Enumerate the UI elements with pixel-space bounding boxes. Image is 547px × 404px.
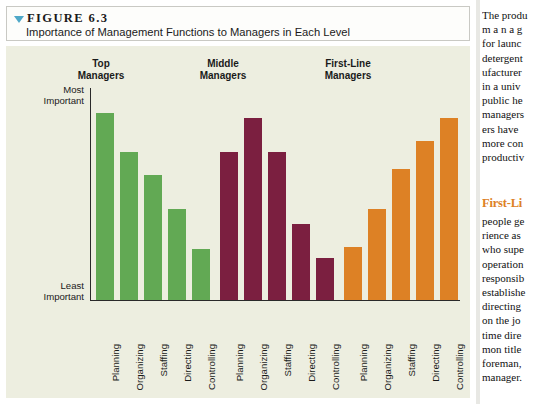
group-heading-middle-line1: Middle xyxy=(168,58,278,70)
bar-first-line-managers-staffing xyxy=(392,169,410,300)
bar-top-managers-directing xyxy=(168,209,186,300)
text-line: who supe xyxy=(482,242,547,256)
figure-number: FIGURE 6.3 xyxy=(27,11,108,26)
bar-first-line-managers-directing xyxy=(416,141,434,300)
body-paragraph-2: people gerience aswho supeoperationrespo… xyxy=(482,214,547,384)
x-tick-label: Controlling xyxy=(206,344,217,390)
bar-first-line-managers-organizing xyxy=(368,209,386,300)
text-line: managers xyxy=(482,107,547,121)
text-line: rience as xyxy=(482,228,547,242)
page-gutter xyxy=(476,0,480,404)
text-line: responsib xyxy=(482,271,547,285)
bar-first-line-managers-controlling xyxy=(440,118,458,300)
x-tick-label: Staffing xyxy=(282,344,293,376)
x-tick-label: Directing xyxy=(182,344,193,382)
bar-middle-managers-organizing xyxy=(244,118,262,300)
x-tick-label: Planning xyxy=(358,344,369,381)
x-tick-label: Staffing xyxy=(406,344,417,376)
y-axis-label-least: Least Important xyxy=(18,280,84,302)
text-line: people ge xyxy=(482,214,547,228)
group-heading-middle-line2: Managers xyxy=(168,70,278,82)
bar-top-managers-staffing xyxy=(144,175,162,300)
group-heading-firstline: First-Line Managers xyxy=(293,58,403,82)
text-line: The produ xyxy=(482,8,547,22)
text-line: establishe xyxy=(482,285,547,299)
figure-label-row: FIGURE 6.3 xyxy=(14,11,108,26)
text-line: ers have xyxy=(482,122,547,136)
text-line: operation xyxy=(482,257,547,271)
text-line: detergent xyxy=(482,51,547,65)
bar-middle-managers-staffing xyxy=(268,152,286,300)
x-tick-label: Organizing xyxy=(382,344,393,390)
bar-top-managers-organizing xyxy=(120,152,138,300)
bar-middle-managers-planning xyxy=(220,152,238,300)
text-line: more con xyxy=(482,136,547,150)
group-heading-top-line2: Managers xyxy=(46,70,156,82)
x-tick-label: Organizing xyxy=(258,344,269,390)
group-heading-top-line1: Top xyxy=(46,58,156,70)
triangle-down-icon xyxy=(14,16,24,23)
figure-title: Importance of Management Functions to Ma… xyxy=(26,26,350,38)
text-line: m a n a g xyxy=(482,22,547,36)
body-text-column: The produm a n a gfor launcdetergentufac… xyxy=(482,0,547,404)
bar-top-managers-planning xyxy=(96,113,114,300)
x-tick-label: Directing xyxy=(430,344,441,382)
x-tick-label: Planning xyxy=(110,344,121,381)
bar-middle-managers-directing xyxy=(292,224,310,300)
text-line: time dire xyxy=(482,328,547,342)
group-heading-firstline-line2: Managers xyxy=(293,70,403,82)
x-tick-label: Planning xyxy=(234,344,245,381)
x-tick-label: Directing xyxy=(306,344,317,382)
group-heading-firstline-line1: First-Line xyxy=(293,58,403,70)
figure-page: FIGURE 6.3 Importance of Management Func… xyxy=(0,0,547,404)
y-axis-label-least-line2: Important xyxy=(18,291,84,302)
bar-middle-managers-controlling xyxy=(316,258,334,300)
text-line: mon title xyxy=(482,342,547,356)
text-line: public he xyxy=(482,93,547,107)
text-line: ufacturer xyxy=(482,65,547,79)
y-axis-label-least-line1: Least xyxy=(18,280,84,291)
bar-top-managers-controlling xyxy=(192,249,210,300)
text-line: on the jo xyxy=(482,313,547,327)
text-line: manager. xyxy=(482,370,547,384)
group-heading-top: Top Managers xyxy=(46,58,156,82)
text-line: productiv xyxy=(482,150,547,164)
x-tick-label: Staffing xyxy=(158,344,169,376)
group-heading-middle: Middle Managers xyxy=(168,58,278,82)
plot-area: Most Important Least Important PlanningO… xyxy=(90,88,460,300)
y-axis-label-most: Most Important xyxy=(18,84,84,106)
bar-first-line-managers-planning xyxy=(344,247,362,300)
y-axis-label-most-line1: Most xyxy=(18,84,84,95)
x-axis-line xyxy=(90,300,460,301)
y-axis-label-most-line2: Important xyxy=(18,95,84,106)
figure-caption-box: FIGURE 6.3 Importance of Management Func… xyxy=(6,6,470,41)
x-tick-label: Controlling xyxy=(454,344,465,390)
x-tick-label: Organizing xyxy=(134,344,145,390)
text-line: directing xyxy=(482,299,547,313)
body-paragraph-1: The produm a n a gfor launcdetergentufac… xyxy=(482,8,547,164)
text-line: in a univ xyxy=(482,79,547,93)
section-heading-first-line: First-Li xyxy=(482,196,522,210)
chart-panel: Top Managers Middle Managers First-Line … xyxy=(6,46,470,398)
figure-column: FIGURE 6.3 Importance of Management Func… xyxy=(0,0,476,404)
text-line: for launc xyxy=(482,36,547,50)
text-line: foreman, xyxy=(482,356,547,370)
x-tick-label: Controlling xyxy=(330,344,341,390)
